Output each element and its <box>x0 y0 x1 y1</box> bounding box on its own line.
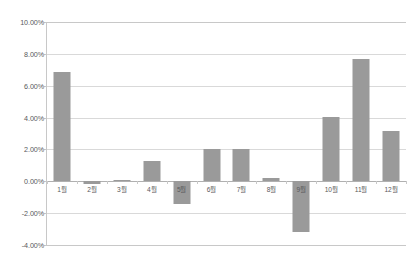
bar-group[interactable]: 5월 <box>167 22 197 245</box>
y-axis-label: -2.00% <box>22 209 44 218</box>
bar-group[interactable]: 6월 <box>197 22 227 245</box>
y-axis-label: 10.00% <box>20 18 44 27</box>
y-axis-label: 6.00% <box>24 81 44 90</box>
x-axis-tick <box>316 181 317 184</box>
bar-group[interactable]: 9월 <box>286 22 316 245</box>
x-axis-tick <box>346 181 347 184</box>
x-axis-tick <box>167 181 168 184</box>
bar[interactable] <box>353 59 370 182</box>
x-axis-tick <box>47 181 48 184</box>
y-axis-label: -4.00% <box>22 241 44 250</box>
bar-group[interactable]: 2월 <box>77 22 107 245</box>
bar[interactable] <box>263 178 280 181</box>
x-axis-tick <box>256 181 257 184</box>
x-axis-label: 9월 <box>297 184 306 194</box>
plot-area: 10.00%8.00%6.00%4.00%2.00%0.00%-2.00%-4.… <box>46 22 406 245</box>
bar[interactable] <box>143 161 160 182</box>
bar-group[interactable]: 3월 <box>107 22 137 245</box>
bar[interactable] <box>113 180 130 182</box>
bar-group[interactable]: 1월 <box>47 22 77 245</box>
x-axis-tick <box>406 181 407 184</box>
x-axis-tick <box>286 181 287 184</box>
bar-group[interactable]: 11월 <box>346 22 376 245</box>
y-axis-tick <box>44 245 47 246</box>
x-axis-label: 2월 <box>87 184 96 194</box>
bars-layer: 1월2월3월4월5월6월7월8월9월10월11월12월 <box>47 22 406 245</box>
x-axis-label: 8월 <box>267 184 276 194</box>
y-axis-label: 0.00% <box>24 177 44 186</box>
x-axis-tick <box>137 181 138 184</box>
bar[interactable] <box>53 72 70 181</box>
bar-group[interactable]: 4월 <box>137 22 167 245</box>
bar-group[interactable]: 10월 <box>316 22 346 245</box>
x-axis-tick <box>227 181 228 184</box>
bar-group[interactable]: 12월 <box>376 22 406 245</box>
x-axis-tick <box>107 181 108 184</box>
bar-chart: 10.00%8.00%6.00%4.00%2.00%0.00%-2.00%-4.… <box>0 0 416 262</box>
bar[interactable] <box>323 117 340 182</box>
y-axis-label: 4.00% <box>24 113 44 122</box>
x-axis-label: 12월 <box>385 184 398 194</box>
bar-group[interactable]: 8월 <box>256 22 286 245</box>
x-axis-label: 10월 <box>325 184 338 194</box>
bar-group[interactable]: 7월 <box>227 22 257 245</box>
bar[interactable] <box>383 131 400 181</box>
x-axis-tick <box>197 181 198 184</box>
y-axis-label: 8.00% <box>24 49 44 58</box>
bar[interactable] <box>203 149 220 182</box>
x-axis-label: 3월 <box>117 184 126 194</box>
x-axis-label: 11월 <box>355 184 368 194</box>
x-axis-tick <box>376 181 377 184</box>
x-axis-label: 5월 <box>177 184 186 194</box>
x-axis-tick <box>77 181 78 184</box>
bar[interactable] <box>233 149 250 182</box>
x-axis-label: 6월 <box>207 184 216 194</box>
x-axis-label: 4월 <box>147 184 156 194</box>
x-axis-label: 7월 <box>237 184 246 194</box>
y-axis-label: 2.00% <box>24 145 44 154</box>
x-axis-label: 1월 <box>57 184 66 194</box>
gridline <box>47 245 406 246</box>
